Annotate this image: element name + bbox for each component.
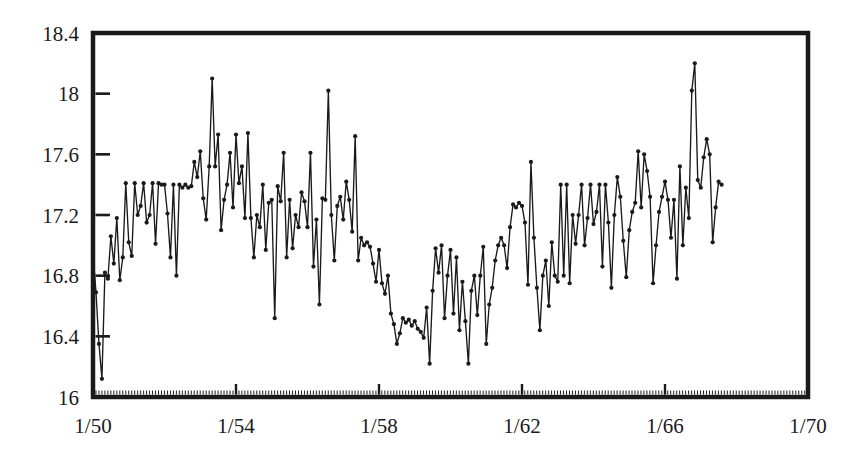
time-series-plot: 1616.416.817.217.61818.4 1/501/541/581/6… [0, 0, 845, 468]
x-axis-tick-label: 1/58 [360, 414, 397, 438]
x-axis-tick-label: 1/66 [646, 414, 683, 438]
y-axis-tick-label: 16.4 [42, 325, 79, 349]
y-axis-tick-label: 16.8 [42, 264, 79, 288]
y-axis-tick-label: 18 [58, 82, 79, 106]
data-series-markers [91, 61, 724, 381]
y-axis-tick-label: 17.2 [42, 204, 79, 228]
y-axis-tick-label: 17.6 [42, 143, 79, 167]
x-axis-tick-label: 1/50 [74, 414, 111, 438]
plot-axis-frame [93, 33, 808, 397]
chart-figure: 1616.416.817.217.61818.4 1/501/541/581/6… [0, 0, 845, 468]
y-axis-tick-labels: 1616.416.817.217.61818.4 [42, 22, 79, 410]
x-axis-minor-ticks [96, 391, 805, 395]
data-series-line [93, 63, 722, 378]
y-axis-tick-label: 18.4 [42, 22, 79, 46]
x-axis-tick-label: 1/54 [217, 414, 255, 438]
x-axis-tick-label: 1/70 [789, 414, 826, 438]
x-axis-tick-labels: 1/501/541/581/621/661/70 [74, 414, 826, 438]
y-axis-tick-label: 16 [58, 386, 79, 410]
x-axis-tick-label: 1/62 [503, 414, 540, 438]
